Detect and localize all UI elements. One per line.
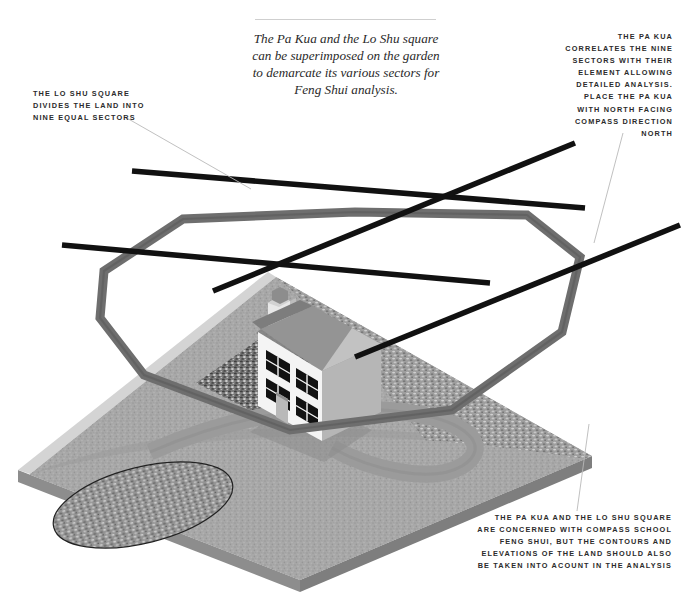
annotation-line: PLACE THE PA KUA bbox=[521, 91, 673, 103]
annotation-line: THE PA KUA bbox=[521, 31, 673, 43]
caption-rule bbox=[255, 19, 436, 20]
house bbox=[250, 287, 381, 462]
caption-line: to demarcate its various sectors for bbox=[238, 64, 454, 81]
annotation-line: SECTORS WITH THEIR bbox=[521, 55, 673, 67]
leader-pa-kua bbox=[594, 133, 623, 243]
annotation-line: BE TAKEN INTO ACOUNT IN THE ANALYSIS bbox=[456, 560, 672, 572]
annotation-compass-school: THE PA KUA AND THE LO SHU SQUARE ARE CON… bbox=[456, 512, 672, 572]
annotation-pa-kua: THE PA KUA CORRELATES THE NINE SECTORS W… bbox=[521, 31, 673, 140]
annotation-line: WITH NORTH FACING bbox=[521, 104, 673, 116]
grid-line-4 bbox=[355, 225, 680, 357]
annotation-line: THE LO SHU SQUARE bbox=[33, 88, 213, 100]
annotation-line: ELEMENT ALLOWING bbox=[521, 67, 673, 79]
figure-stage: The Pa Kua and the Lo Shu square can be … bbox=[0, 0, 681, 597]
annotation-line: COMPASS DIRECTION bbox=[521, 116, 673, 128]
annotation-lo-shu-square: THE LO SHU SQUARE DIVIDES THE LAND INTO … bbox=[33, 88, 213, 124]
annotation-line: NINE EQUAL SECTORS bbox=[33, 112, 213, 124]
lo-shu-grid bbox=[62, 143, 680, 357]
caption-line: The Pa Kua and the Lo Shu square bbox=[238, 30, 454, 47]
figure-caption: The Pa Kua and the Lo Shu square can be … bbox=[238, 30, 454, 98]
annotation-line: ELEVATIONS OF THE LAND SHOULD ALSO bbox=[456, 548, 672, 560]
caption-line: Feng Shui analysis. bbox=[238, 81, 454, 98]
grid-line-1 bbox=[132, 171, 585, 208]
annotation-line: THE PA KUA AND THE LO SHU SQUARE bbox=[456, 512, 672, 524]
caption-line: can be superimposed on the garden bbox=[238, 47, 454, 64]
annotation-line: DETAILED ANALYSIS. bbox=[521, 79, 673, 91]
annotation-line: DIVIDES THE LAND INTO bbox=[33, 100, 213, 112]
annotation-line: CORRELATES THE NINE bbox=[521, 43, 673, 55]
annotation-line: FENG SHUI, BUT THE CONTOURS AND bbox=[456, 536, 672, 548]
annotation-line: ARE CONCERNED WITH COMPASS SCHOOL bbox=[456, 524, 672, 536]
annotation-line: NORTH bbox=[521, 128, 673, 140]
